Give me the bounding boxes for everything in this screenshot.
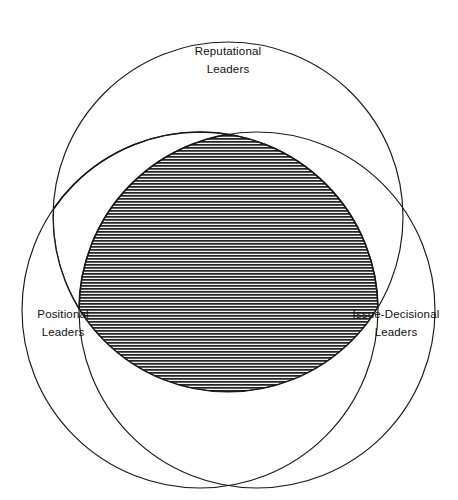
venn-diagram-figure: Reputational Leaders Positional Leaders … [0,0,458,500]
label-reputational-line1: Reputational [195,45,261,57]
venn-diagram-canvas: Reputational Leaders Positional Leaders … [0,0,458,500]
label-reputational-line2: Leaders [207,63,250,75]
label-positional-line1: Positional [37,308,88,320]
label-positional-line2: Leaders [42,326,85,338]
label-issue-decisional-line2: Leaders [375,326,418,338]
label-issue-decisional-line1: Issue-Decisional [353,308,440,320]
